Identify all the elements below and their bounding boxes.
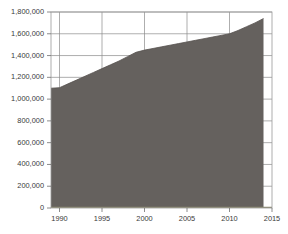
y-tick-label: 600,000: [17, 138, 44, 147]
y-tick-label: 200,000: [17, 181, 44, 190]
chart-canvas: 0200,000400,000600,000800,0001,000,0001,…: [0, 0, 288, 234]
area-chart: 0200,000400,000600,000800,0001,000,0001,…: [0, 0, 288, 234]
y-tick-label: 1,600,000: [11, 29, 44, 38]
y-tick-label: 400,000: [17, 159, 44, 168]
y-tick-label: 1,200,000: [11, 72, 44, 81]
y-tick-label: 1,800,000: [11, 7, 44, 16]
x-tick-label: 2005: [179, 214, 195, 223]
x-tick-label: 2015: [264, 214, 280, 223]
y-tick-label: 800,000: [17, 116, 44, 125]
y-tick-label: 1,400,000: [11, 51, 44, 60]
y-tick-label: 0: [40, 203, 44, 212]
y-tick-label: 1,000,000: [11, 94, 44, 103]
x-tick-label: 1990: [51, 214, 67, 223]
x-tick-label: 1995: [94, 214, 110, 223]
x-tick-label: 2010: [221, 214, 237, 223]
x-tick-label: 2000: [136, 214, 152, 223]
